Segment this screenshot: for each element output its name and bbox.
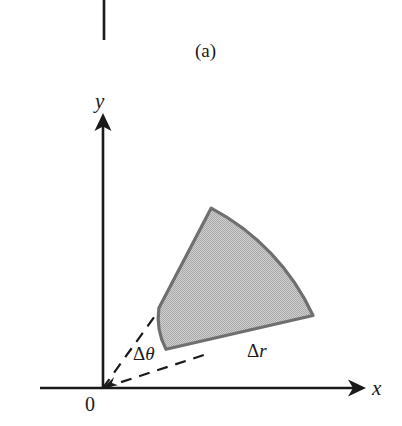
x-axis-label: x — [372, 378, 381, 399]
dashed-ray-lower — [103, 354, 207, 388]
delta-symbol: Δ — [247, 340, 259, 361]
r-symbol: r — [259, 340, 266, 361]
polar-sector-diagram — [0, 0, 402, 426]
figure-container: (a) y x 0 Δθ Δr — [0, 0, 402, 426]
origin-label: 0 — [85, 394, 95, 414]
delta-theta-label: Δθ — [133, 344, 155, 363]
theta-symbol: θ — [145, 343, 154, 364]
y-axis-label: y — [95, 91, 104, 112]
polar-area-element — [158, 208, 313, 349]
delta-r-label: Δr — [247, 341, 267, 360]
panel-label: (a) — [195, 41, 216, 60]
delta-symbol: Δ — [133, 343, 145, 364]
